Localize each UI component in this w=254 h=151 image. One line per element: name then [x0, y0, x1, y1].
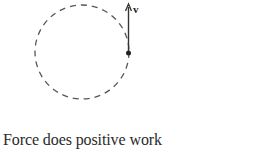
circular-motion-diagram: v — [0, 0, 254, 151]
orbit-dashed-circle — [35, 5, 129, 99]
velocity-label: v — [133, 3, 139, 15]
caption: Force does positive work — [3, 131, 162, 149]
particle-dot — [126, 51, 131, 56]
